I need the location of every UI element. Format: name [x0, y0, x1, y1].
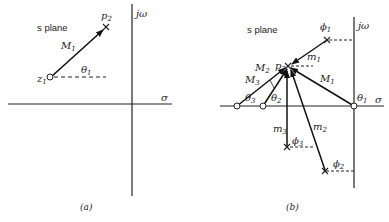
svg-text:jω: jω — [356, 20, 369, 31]
caption-a: (a) — [80, 202, 93, 212]
zero-theta1-icon — [351, 103, 357, 109]
svg-text:σ: σ — [161, 92, 169, 103]
M1-label: M — [319, 73, 331, 84]
svg-text:ϕ3: ϕ3 — [292, 135, 304, 148]
svg-text:m3: m3 — [273, 123, 287, 136]
svg-text:p2: p2 — [101, 10, 112, 23]
svg-text:z1: z1 — [36, 73, 47, 86]
svg-text:M1: M1 — [319, 73, 335, 86]
svg-text:θ1: θ1 — [81, 64, 92, 77]
m1-label-a: M — [60, 40, 72, 51]
jw-label-a: jω — [134, 8, 147, 19]
zero-theta3-icon — [234, 103, 240, 109]
panel-a: σ jω s plane p2 M1 θ1 z1 (a) — [8, 4, 172, 212]
svg-text:θ1: θ1 — [357, 92, 368, 105]
svg-text:m2: m2 — [313, 121, 327, 134]
svg-text:p2: p2 — [275, 60, 286, 73]
svg-text:σ: σ — [375, 94, 383, 105]
svg-text:s plane: s plane — [247, 24, 278, 35]
svg-text:ϕ1: ϕ1 — [320, 21, 331, 34]
svg-text:M2: M2 — [254, 62, 270, 75]
m2-label: m — [313, 121, 322, 132]
M3-label: M — [244, 74, 256, 85]
sigma-label-b: σ — [375, 94, 383, 105]
pole-p2-icon — [103, 24, 109, 30]
svg-text:θ3: θ3 — [245, 92, 256, 105]
panel-b: σ jω s plane ϕ1 m1 p2 M2 M3 M1 θ3 — [220, 17, 384, 212]
vector-m1-a — [51, 30, 103, 77]
svg-text:s plane: s plane — [37, 22, 68, 33]
jw-label-b: jω — [356, 20, 369, 31]
m3-leader — [270, 80, 274, 88]
caption-b: (b) — [286, 202, 299, 212]
s-plane-label-a: s plane — [37, 22, 68, 33]
M2-label: M — [254, 62, 266, 73]
svg-text:M1: M1 — [60, 40, 76, 53]
m3-label: m — [273, 123, 282, 134]
point-p2-icon — [285, 63, 291, 69]
svg-text:M3: M3 — [244, 74, 260, 87]
svg-text:ϕ2: ϕ2 — [333, 158, 345, 171]
m1-label: m — [307, 51, 316, 62]
s-plane-diagram: σ jω s plane p2 M1 θ1 z1 (a) σ jω s plan… — [0, 0, 389, 222]
svg-text:θ2: θ2 — [271, 92, 282, 105]
zero-z1-icon — [47, 74, 53, 80]
zero-theta2-icon — [260, 103, 266, 109]
svg-text:m1: m1 — [307, 51, 321, 64]
s-plane-label-b: s plane — [247, 24, 278, 35]
svg-text:jω: jω — [134, 8, 147, 19]
sigma-label-a: σ — [161, 92, 169, 103]
